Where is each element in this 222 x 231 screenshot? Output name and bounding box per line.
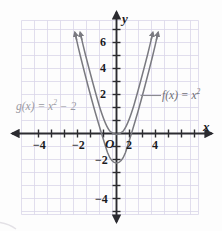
- axis-lines: [12, 12, 212, 222]
- x-tick-label-neg4: −4: [33, 139, 46, 151]
- g-curve-label: g(x) = x2 − 2: [16, 101, 76, 113]
- y-tick-label-6: 6: [100, 36, 106, 48]
- y-axis-name: y: [122, 12, 128, 25]
- grid-lines: [22, 21, 199, 215]
- y-tick-label-neg2: −2: [95, 154, 108, 166]
- f-curve-label-text: f(x) = x: [162, 89, 197, 101]
- coordinate-plane: [0, 0, 222, 231]
- y-tick-label-4: 4: [100, 62, 106, 74]
- x-tick-label-2: 2: [126, 139, 132, 151]
- g-curve-label-suffix: − 2: [57, 100, 76, 112]
- y-tick-label-neg4: −4: [95, 193, 108, 205]
- g-curve-label-text: g(x) = x: [16, 100, 53, 112]
- x-axis-name: x: [203, 120, 210, 133]
- f-curve-label: f(x) = x2: [162, 90, 200, 102]
- x-tick-label-neg2: −2: [72, 139, 85, 151]
- f-curve-label-exponent: 2: [197, 87, 201, 96]
- y-tick-label-2: 2: [100, 88, 106, 100]
- origin-label: O: [105, 137, 114, 150]
- graph-figure: −4 −2 2 4 6 4 2 −2 −4 O x y f(x) = x2 g(…: [0, 0, 222, 231]
- page-edge-artifact: [0, 222, 16, 229]
- curve-g-arrow-left: [75, 33, 77, 41]
- curve-g-arrow-right: [156, 33, 158, 41]
- x-tick-label-4: 4: [152, 139, 158, 151]
- curve-f-arrow-left: [80, 33, 82, 41]
